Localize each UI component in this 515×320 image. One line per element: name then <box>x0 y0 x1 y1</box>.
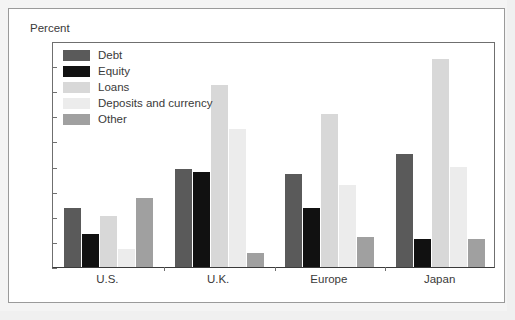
page-edge-right <box>507 0 515 320</box>
x-axis-label: U.K. <box>173 273 263 285</box>
legend-label: Equity <box>98 65 130 77</box>
legend-swatch <box>63 82 90 93</box>
x-axis-label: Europe <box>284 273 374 285</box>
legend-swatch <box>63 50 90 61</box>
y-axis-tick-mark <box>52 268 57 269</box>
legend-item: Equity <box>63 65 212 77</box>
bar <box>229 129 246 267</box>
bar <box>285 174 302 267</box>
legend-label: Other <box>98 113 127 125</box>
y-axis-tick-mark <box>52 168 57 169</box>
y-axis-tick-mark <box>52 42 57 43</box>
bar <box>175 169 192 267</box>
y-axis-tick-mark <box>52 92 57 93</box>
legend-item: Other <box>63 113 212 125</box>
chart-legend: DebtEquityLoansDeposits and currencyOthe… <box>63 49 212 125</box>
bar <box>450 167 467 267</box>
bar-group <box>396 43 485 267</box>
legend-label: Deposits and currency <box>98 97 212 109</box>
x-axis-tick-mark <box>275 267 276 271</box>
bar <box>136 198 153 267</box>
bar <box>357 237 374 267</box>
legend-item: Loans <box>63 81 212 93</box>
bar <box>82 234 99 267</box>
bar <box>396 154 413 267</box>
page-edge-bottom <box>0 311 515 320</box>
bar <box>321 114 338 267</box>
y-axis-tick-mark <box>52 117 57 118</box>
legend-swatch <box>63 98 90 109</box>
bar <box>64 208 81 267</box>
bar <box>118 249 135 267</box>
y-axis-tick-mark <box>52 243 57 244</box>
bar <box>303 208 320 267</box>
legend-label: Loans <box>98 81 129 93</box>
y-axis-tick-mark <box>52 218 57 219</box>
legend-item: Deposits and currency <box>63 97 212 109</box>
bar <box>100 216 117 267</box>
legend-label: Debt <box>98 49 122 61</box>
legend-swatch <box>63 114 90 125</box>
x-axis-label: U.S. <box>62 273 152 285</box>
legend-swatch <box>63 66 90 77</box>
y-axis-tick-mark <box>52 67 57 68</box>
y-axis-tick-mark <box>52 142 57 143</box>
chart-screenshot: Percent 180160140120100806040200 U.S.U.K… <box>0 0 515 320</box>
x-axis-label: Japan <box>395 273 485 285</box>
legend-item: Debt <box>63 49 212 61</box>
bar-group <box>285 43 374 267</box>
bar <box>247 253 264 267</box>
bar <box>193 172 210 267</box>
x-axis-tick-mark <box>385 267 386 271</box>
y-axis-unit-caption: Percent <box>30 22 70 34</box>
bar <box>432 59 449 267</box>
y-axis-tick-mark <box>52 193 57 194</box>
bar <box>339 185 356 267</box>
bar <box>468 239 485 267</box>
bar <box>211 85 228 267</box>
x-axis-tick-mark <box>164 267 165 271</box>
bar <box>414 239 431 267</box>
